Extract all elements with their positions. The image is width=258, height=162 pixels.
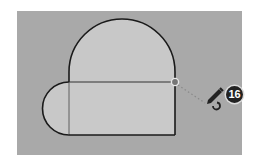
dome-face — [69, 19, 175, 82]
sketch-geometry — [0, 0, 258, 162]
endpoint-inference-marker[interactable] — [171, 78, 178, 85]
rectangle-face — [69, 82, 175, 135]
pencil-arc-icon — [207, 88, 223, 110]
left-tab-face — [43, 82, 69, 135]
step-number-badge: 16 — [226, 86, 243, 103]
inference-dotted-line — [178, 85, 205, 103]
